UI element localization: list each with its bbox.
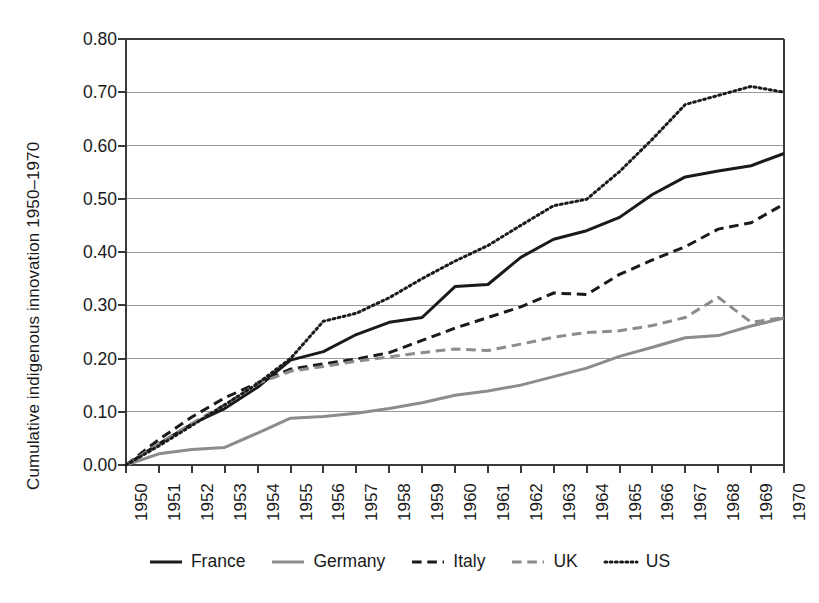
series-line-germany	[126, 318, 784, 465]
x-tick-label: 1958	[395, 483, 415, 521]
x-tick-label: 1970	[790, 483, 810, 521]
x-tick-label: 1968	[724, 483, 744, 521]
x-tick-label: 1967	[691, 483, 711, 521]
legend-item-italy[interactable]: Italy	[411, 551, 485, 572]
x-tick-label: 1952	[198, 483, 218, 521]
x-tick-label: 1956	[329, 483, 349, 521]
x-tick-label: 1961	[494, 483, 514, 521]
y-tick-label: 0.00	[55, 455, 117, 476]
legend-item-germany[interactable]: Germany	[271, 551, 385, 572]
x-tick-label: 1960	[461, 483, 481, 521]
line-dashed-black-icon	[411, 555, 445, 569]
line-dotted-black-icon	[604, 555, 638, 569]
x-tick-label: 1963	[560, 483, 580, 521]
data-series-group	[126, 86, 784, 465]
x-tick-label: 1951	[165, 483, 185, 521]
legend-label: UK	[553, 551, 577, 572]
y-tick-label: 0.20	[55, 348, 117, 369]
line-solid-black-icon	[149, 555, 183, 569]
line-solid-gray-icon	[271, 555, 305, 569]
chart-container: Cumulative indigenous innovation 1950–19…	[0, 0, 819, 603]
x-tick-label: 1957	[362, 483, 382, 521]
legend-label: US	[646, 551, 670, 572]
y-tick-label: 0.50	[55, 188, 117, 209]
line-dashed-gray-icon	[511, 555, 545, 569]
legend-item-us[interactable]: US	[604, 551, 670, 572]
x-tick-label: 1953	[231, 483, 251, 521]
x-tick-label: 1954	[264, 483, 284, 521]
y-axis-tick-labels: 0.000.100.200.300.400.500.600.700.80	[55, 0, 117, 603]
gridlines	[126, 92, 784, 412]
y-tick-label: 0.80	[55, 29, 117, 50]
y-tick-label: 0.60	[55, 135, 117, 156]
legend-item-france[interactable]: France	[149, 551, 245, 572]
legend-label: Italy	[453, 551, 485, 572]
y-axis-title: Cumulative indigenous innovation 1950–19…	[14, 0, 54, 490]
x-tick-label: 1959	[428, 483, 448, 521]
series-line-france	[126, 153, 784, 465]
legend-item-uk[interactable]: UK	[511, 551, 577, 572]
y-tick-label: 0.70	[55, 82, 117, 103]
y-tick-label: 0.30	[55, 295, 117, 316]
x-tick-label: 1965	[626, 483, 646, 521]
x-tick-label: 1950	[132, 483, 152, 521]
x-tick-label: 1964	[593, 483, 613, 521]
chart-legend: FranceGermanyItalyUKUS	[0, 551, 819, 572]
x-tick-label: 1969	[757, 483, 777, 521]
x-tick-label: 1962	[527, 483, 547, 521]
series-line-italy	[126, 204, 784, 465]
series-line-uk	[126, 297, 784, 465]
x-tick-label: 1966	[658, 483, 678, 521]
x-tick-label: 1955	[297, 483, 317, 521]
y-tick-label: 0.10	[55, 401, 117, 422]
y-tick-label: 0.40	[55, 242, 117, 263]
legend-label: France	[191, 551, 245, 572]
legend-label: Germany	[313, 551, 385, 572]
